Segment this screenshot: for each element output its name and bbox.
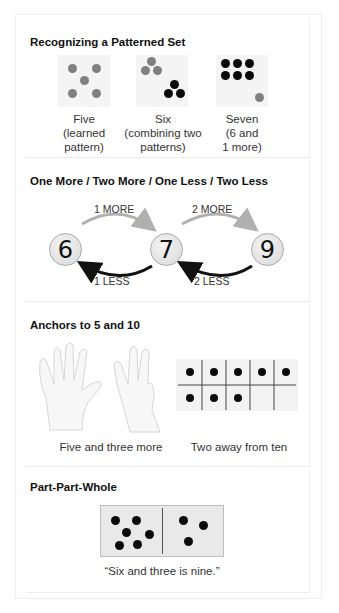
number-circle-9: 9: [251, 233, 284, 266]
arrow-2-more: [182, 214, 254, 228]
section-title: Anchors to 5 and 10: [30, 319, 140, 331]
dot-card-six: [136, 55, 188, 107]
part-part-whole-caption: “Six and three is nine.”: [76, 564, 248, 578]
label-1-less: 1 LESS: [94, 275, 130, 287]
number-circle-7: 7: [150, 233, 183, 266]
section-title: Recognizing a Patterned Set: [30, 36, 185, 48]
arrow-1-less: [82, 264, 152, 276]
section-part-part-whole: Part-Part-Whole “Six and three is nine.”: [16, 469, 316, 593]
section-anchors: Anchors to 5 and 10 Five and three more …: [16, 304, 316, 467]
label-2-less: 2 LESS: [194, 275, 230, 287]
section-title: Part-Part-Whole: [30, 481, 117, 493]
label-2-more: 2 MORE: [192, 203, 232, 215]
caption-seven: Seven (6 and 1 more): [212, 112, 272, 154]
arrow-1-more: [82, 214, 152, 228]
caption-five: Five (learned pattern): [49, 112, 119, 154]
hands-illustration: [32, 340, 172, 440]
section-patterned-set: Recognizing a Patterned Set Five (learne…: [16, 18, 316, 158]
dot-card-seven: [216, 55, 268, 107]
ten-frame-caption: Two away from ten: [184, 440, 294, 454]
arrows-diagram: [16, 160, 316, 302]
hands-caption: Five and three more: [46, 440, 176, 454]
section-more-less: One More / Two More / One Less / Two Les…: [16, 160, 316, 302]
label-1-more: 1 MORE: [94, 203, 134, 215]
number-circle-6: 6: [49, 233, 82, 266]
dot-card-five: [58, 55, 110, 107]
arrow-2-less: [182, 264, 252, 276]
caption-six: Six (combining two patterns): [122, 112, 204, 154]
ten-frame: [176, 359, 298, 411]
domino: [100, 505, 224, 557]
